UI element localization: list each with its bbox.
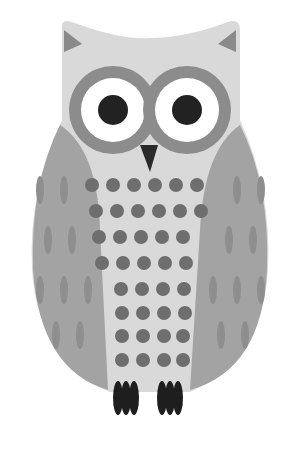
chest-dot	[131, 204, 145, 218]
wing-streak	[257, 276, 265, 304]
chest-dot	[127, 178, 141, 192]
chest-dot	[158, 256, 172, 270]
wing-streak	[257, 176, 265, 204]
chest-dot	[176, 230, 190, 244]
wing-streak	[233, 176, 241, 204]
chest-dot	[148, 178, 162, 192]
chest-dot	[176, 353, 190, 367]
chest-dot	[152, 204, 166, 218]
wing-streak	[241, 321, 249, 349]
chest-dot	[136, 306, 150, 320]
chest-dot	[92, 230, 106, 244]
chest-dot	[113, 230, 127, 244]
chest-dot	[137, 256, 151, 270]
chest-dot	[116, 256, 130, 270]
owl-illustration	[0, 0, 301, 452]
chest-dot	[156, 282, 170, 296]
chest-dot	[178, 306, 192, 320]
chest-dot	[179, 256, 193, 270]
chest-dot	[190, 178, 204, 192]
right-foot-icon	[157, 381, 183, 415]
chest-dot	[135, 282, 149, 296]
chest-dot	[157, 306, 171, 320]
wing-streak	[217, 321, 225, 349]
chest-dot	[134, 230, 148, 244]
wing-streak	[60, 276, 68, 304]
chest-dot	[106, 178, 120, 192]
chest-dot	[173, 204, 187, 218]
chest-dot	[136, 353, 150, 367]
wing-streak	[36, 176, 44, 204]
wing-streak	[233, 276, 241, 304]
wing-streak	[249, 226, 257, 254]
wing-streak	[44, 226, 52, 254]
chest-dot	[136, 329, 150, 343]
chest-dot	[177, 282, 191, 296]
wing-streak	[52, 321, 60, 349]
wing-streak	[76, 321, 84, 349]
chest-dot	[176, 329, 190, 343]
chest-dot	[157, 329, 171, 343]
chest-dot	[110, 204, 124, 218]
chest-dot	[95, 256, 109, 270]
wing-streak	[60, 176, 68, 204]
chest-dot	[115, 329, 129, 343]
chest-dot	[115, 353, 129, 367]
wing-streak	[68, 226, 76, 254]
chest-dot	[114, 282, 128, 296]
chest-dot	[194, 204, 208, 218]
right-eye-icon	[143, 66, 231, 154]
left-foot-icon	[113, 381, 139, 415]
wing-streak	[225, 226, 233, 254]
chest-dot	[169, 178, 183, 192]
chest-dot	[157, 353, 171, 367]
chest-dot	[155, 230, 169, 244]
wing-streak	[209, 276, 217, 304]
chest-dot	[115, 306, 129, 320]
chest-dot	[89, 204, 103, 218]
wing-streak	[84, 276, 92, 304]
wing-streak	[36, 276, 44, 304]
chest-dot	[85, 178, 99, 192]
